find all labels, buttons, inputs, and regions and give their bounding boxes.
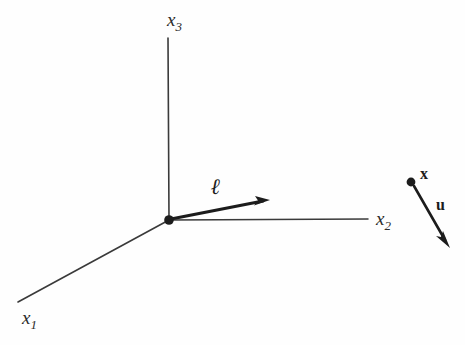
axis-label-x1-sub: 1	[30, 317, 37, 332]
figure-canvas: x3 x2 x1 ℓ u x	[0, 0, 465, 345]
vector-label-u: u	[436, 197, 445, 213]
axis-line-x1	[18, 220, 169, 302]
axis-line-x3	[168, 38, 169, 220]
origin-dot	[164, 215, 174, 225]
vector-arrowhead-u	[436, 231, 450, 248]
axis-label-x2-sub: 2	[384, 218, 391, 233]
axis-label-x3-sub: 3	[175, 19, 182, 34]
axis-line-x2	[169, 219, 368, 220]
axis-label-x3: x3	[167, 10, 182, 29]
point-label-x: x	[420, 166, 428, 182]
diagram-svg	[0, 0, 465, 345]
vector-line-ell	[171, 201, 263, 219]
axis-label-x1: x1	[22, 308, 37, 327]
axis-label-x2: x2	[376, 209, 391, 228]
vector-line-u	[414, 186, 445, 240]
vector-label-ell: ℓ	[211, 176, 220, 198]
